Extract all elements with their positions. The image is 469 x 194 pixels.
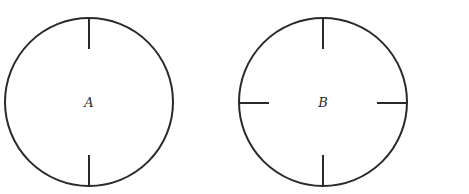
circle-b-group: B <box>239 18 407 186</box>
circle-a-label: A <box>83 95 93 110</box>
circle-a-group: A <box>5 18 173 186</box>
two-circle-diagram: A B <box>0 0 469 194</box>
circle-b-label: B <box>317 95 328 110</box>
